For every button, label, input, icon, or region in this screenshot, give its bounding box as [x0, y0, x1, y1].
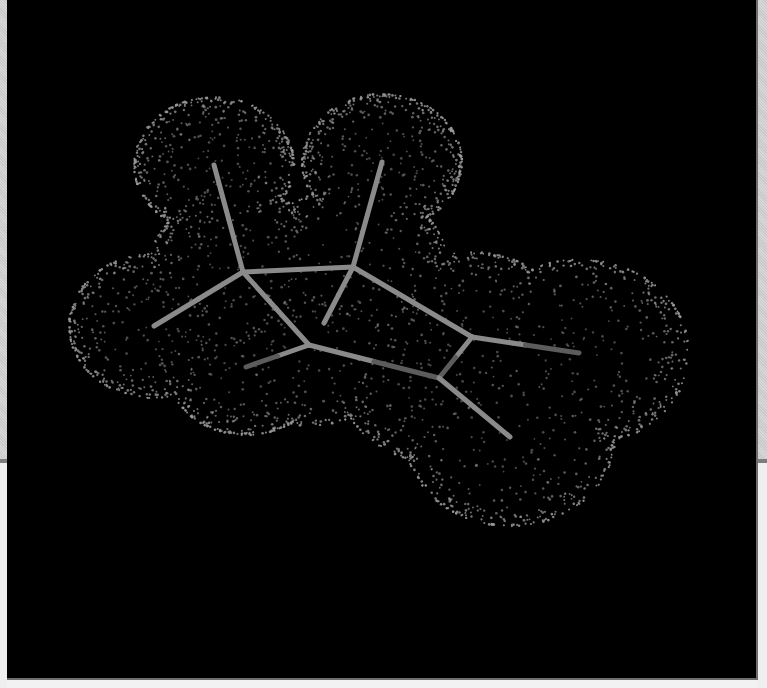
window-margin-right-lower — [758, 463, 767, 688]
window-margin-right — [758, 0, 767, 459]
bond — [324, 295, 339, 323]
bond — [199, 272, 244, 299]
bond — [439, 358, 456, 379]
bond — [246, 356, 278, 367]
bond — [276, 309, 309, 346]
window-margin-left — [0, 0, 7, 459]
bond — [526, 345, 580, 353]
bond — [353, 267, 413, 302]
bond — [413, 302, 473, 337]
bond — [353, 215, 368, 268]
molecule-render[interactable] — [7, 0, 756, 678]
molecule-3d-viewport[interactable] — [7, 0, 758, 680]
bond — [309, 345, 374, 362]
bond — [243, 272, 276, 309]
bond — [472, 337, 526, 345]
bond — [339, 267, 354, 295]
molecule-bonds — [154, 162, 579, 437]
molecular-surface-dots — [68, 93, 689, 527]
bond — [154, 299, 199, 326]
bond — [475, 408, 511, 438]
bond — [439, 378, 475, 408]
bond — [278, 345, 310, 356]
bond — [298, 267, 353, 270]
bond — [368, 162, 383, 215]
window-margin-left-lower — [0, 463, 7, 688]
bond — [243, 270, 298, 273]
bond — [214, 165, 229, 219]
bond — [456, 337, 473, 358]
